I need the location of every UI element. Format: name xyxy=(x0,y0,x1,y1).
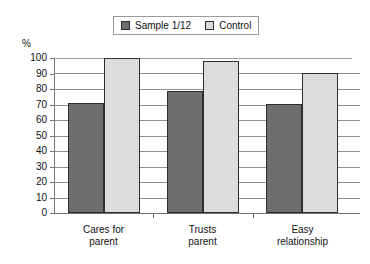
x-axis-category-label: Easy relationship xyxy=(253,224,352,248)
bar xyxy=(167,91,203,213)
y-axis-tick-label: 50 xyxy=(19,131,47,141)
legend-swatch-control xyxy=(205,21,214,30)
legend-label-sample: Sample 1/12 xyxy=(135,21,191,31)
y-axis-tick-label: 80 xyxy=(19,84,47,94)
x-axis-baseline xyxy=(54,213,360,214)
y-axis-tick-label: 90 xyxy=(19,69,47,79)
x-axis-category-label: Cares for parent xyxy=(54,224,153,248)
y-axis-tick-label: 70 xyxy=(19,100,47,110)
x-axis-tick-mark xyxy=(153,214,154,218)
y-axis-tick-label: 60 xyxy=(19,115,47,125)
y-axis-tick-label: 10 xyxy=(19,193,47,203)
y-axis-tick-label: 0 xyxy=(19,208,47,218)
x-axis-tick-mark xyxy=(253,214,254,218)
chart-legend: Sample 1/12 Control xyxy=(113,16,259,35)
y-axis-tick-label: 100 xyxy=(19,53,47,63)
legend-label-control: Control xyxy=(219,21,251,31)
bar xyxy=(302,73,338,213)
bar xyxy=(266,104,302,213)
legend-entry-sample: Sample 1/12 xyxy=(121,21,191,31)
y-axis-tick-label: 30 xyxy=(19,162,47,172)
y-axis-tick-label: 40 xyxy=(19,146,47,156)
x-axis-category-label: Trusts parent xyxy=(153,224,252,248)
legend-entry-control: Control xyxy=(205,21,251,31)
bar xyxy=(203,61,239,213)
legend-swatch-sample xyxy=(121,21,130,30)
bar-chart: Sample 1/12 Control % 100908070605040302… xyxy=(0,0,370,264)
y-axis-unit-label: % xyxy=(22,39,31,49)
y-axis-tick-label: 20 xyxy=(19,177,47,187)
plot-area xyxy=(54,58,352,213)
bar xyxy=(104,58,140,213)
bar xyxy=(68,103,104,213)
